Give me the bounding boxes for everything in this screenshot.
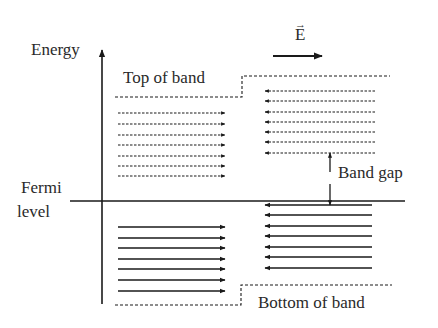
band-gap-label: Band gap [338,164,403,181]
upper-left-dotted-arrows [118,113,225,176]
top-of-band-label: Top of band [123,69,205,86]
field-vector-arrow-icon: → [295,19,306,30]
bottom-of-band-label: Bottom of band [258,294,365,311]
fermi-level-label-line1: Fermi [21,179,62,196]
fermi-level-label-line2: level [17,203,50,220]
lower-right-solid-arrows [265,205,372,268]
field-label: → E [295,26,305,43]
energy-axis-label: Energy [31,41,80,58]
lower-left-solid-arrows [118,227,225,291]
upper-right-dotted-arrows [265,91,375,153]
